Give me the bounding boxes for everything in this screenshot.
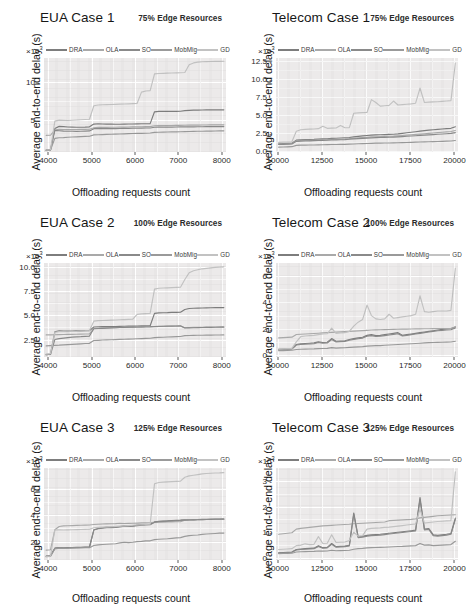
legend-item-mobmig[interactable]: MobMig [383, 456, 429, 463]
legend-item-ola[interactable]: OLA [83, 46, 119, 53]
x-tick-label: 4000 [39, 361, 57, 370]
series-line-so [46, 326, 224, 355]
chart-legend: DRAOLASOMobMigGD [46, 44, 230, 55]
legend-item-mobmig[interactable]: MobMig [151, 46, 197, 53]
legend-label: SO [374, 251, 383, 258]
x-axis-label: Offloading requests count [274, 593, 422, 604]
legend-swatch-ola [83, 459, 104, 461]
legend-label: SO [142, 456, 151, 463]
y-tick-label: 10 - [26, 78, 40, 87]
plot-area: 0 -2 -4 -6 -1000012500150001750020000 [276, 263, 458, 357]
y-tick-label: 0.0 - [256, 146, 272, 155]
legend-item-so[interactable]: SO [119, 251, 151, 258]
x-tick-label: 17500 [399, 156, 422, 165]
x-tick-mark [277, 357, 278, 360]
panel-title: EUA Case 2 [40, 215, 115, 230]
y-tick-label: 1 - [263, 528, 272, 537]
panel-subtitle: 75% Edge Resources [370, 14, 454, 23]
legend-label: MobMig [174, 46, 197, 53]
legend-item-so[interactable]: SO [119, 456, 151, 463]
legend-item-mobmig[interactable]: MobMig [151, 456, 197, 463]
legend-item-gd[interactable]: GD [197, 456, 230, 463]
legend-swatch-mobmig [151, 254, 172, 256]
legend-swatch-gd [429, 459, 450, 461]
y-tick-label: 4 - [263, 298, 272, 307]
y-tick-label: 2.5 - [24, 335, 40, 344]
x-tick-mark [366, 560, 367, 563]
legend-swatch-dra [278, 49, 299, 51]
legend-item-mobmig[interactable]: MobMig [383, 251, 429, 258]
y-axis-label: Average end-to-end delay (s) [30, 435, 42, 585]
series-line-gd [46, 473, 224, 557]
y-tick-label: 0 - [263, 351, 272, 360]
x-axis-label: Offloading requests count [42, 392, 190, 403]
y-tick-label: 7.5 - [256, 92, 272, 101]
legend-item-gd[interactable]: GD [429, 251, 462, 258]
legend-item-mobmig[interactable]: MobMig [151, 251, 197, 258]
x-tick-label: 8000 [213, 564, 231, 573]
series-line-mobmig [46, 533, 224, 557]
legend-swatch-so [351, 459, 372, 461]
legend-item-gd[interactable]: GD [429, 46, 462, 53]
legend-item-ola[interactable]: OLA [315, 456, 351, 463]
y-tick-label: 6 - [263, 272, 272, 281]
plot-area: 0 -1 -2 -3 -1000012500150001750020000 [276, 468, 458, 560]
legend-item-so[interactable]: SO [351, 46, 383, 53]
y-tick-label: 3 - [263, 476, 272, 485]
x-tick-mark [48, 357, 49, 360]
x-tick-label: 5000 [83, 361, 101, 370]
panel-title: Telecom Case 1 [272, 10, 370, 25]
legend-item-dra[interactable]: DRA [278, 251, 315, 258]
legend-item-gd[interactable]: GD [197, 46, 230, 53]
legend-item-dra[interactable]: DRA [46, 251, 83, 258]
y-tick-label: 10.0 - [251, 74, 272, 83]
x-tick-label: 10000 [267, 564, 290, 573]
x-tick-mark [454, 560, 455, 563]
x-tick-mark [454, 152, 455, 155]
legend-item-ola[interactable]: OLA [315, 251, 351, 258]
legend-item-so[interactable]: SO [351, 251, 383, 258]
panel-title: Telecom Case 3 [272, 420, 370, 435]
legend-swatch-so [119, 459, 140, 461]
legend-swatch-gd [197, 459, 218, 461]
x-tick-label: 8000 [213, 156, 231, 165]
x-tick-label: 17500 [399, 564, 422, 573]
legend-item-dra[interactable]: DRA [278, 46, 315, 53]
legend-label: MobMig [406, 251, 429, 258]
x-tick-label: 15000 [355, 361, 378, 370]
legend-item-gd[interactable]: GD [197, 251, 230, 258]
panel-subtitle: 100% Edge Resources [134, 219, 222, 228]
x-tick-label: 12500 [311, 361, 334, 370]
legend-swatch-so [351, 254, 372, 256]
x-tick-label: 15000 [355, 156, 378, 165]
series-layer [276, 58, 458, 152]
legend-item-dra[interactable]: DRA [278, 456, 315, 463]
chart-legend: DRAOLASOMobMigGD [278, 44, 462, 55]
legend-swatch-mobmig [383, 254, 404, 256]
legend-item-ola[interactable]: OLA [83, 456, 119, 463]
x-tick-mark [366, 152, 367, 155]
legend-label: OLA [338, 456, 351, 463]
legend-label: SO [374, 46, 383, 53]
legend-item-dra[interactable]: DRA [46, 456, 83, 463]
legend-label: GD [452, 456, 462, 463]
legend-item-gd[interactable]: GD [429, 456, 462, 463]
legend-label: OLA [106, 456, 119, 463]
legend-swatch-dra [46, 459, 67, 461]
y-tick-label: 7.5 - [24, 287, 40, 296]
x-tick-label: 7000 [169, 564, 187, 573]
legend-item-ola[interactable]: OLA [83, 251, 119, 258]
legend-item-mobmig[interactable]: MobMig [383, 46, 429, 53]
legend-item-ola[interactable]: OLA [315, 46, 351, 53]
panel-title: Telecom Case 2 [272, 215, 370, 230]
panel-title: EUA Case 1 [40, 10, 115, 25]
legend-item-so[interactable]: SO [119, 46, 151, 53]
legend-item-so[interactable]: SO [351, 456, 383, 463]
series-layer [276, 468, 458, 560]
x-tick-label: 6000 [126, 361, 144, 370]
x-tick-label: 20000 [443, 156, 466, 165]
x-tick-mark [221, 560, 222, 563]
y-tick-label: 2 - [263, 324, 272, 333]
chart-panel-telecom-case-1: Telecom Case 175% Edge ResourcesDRAOLASO… [232, 0, 464, 205]
legend-item-dra[interactable]: DRA [46, 46, 83, 53]
